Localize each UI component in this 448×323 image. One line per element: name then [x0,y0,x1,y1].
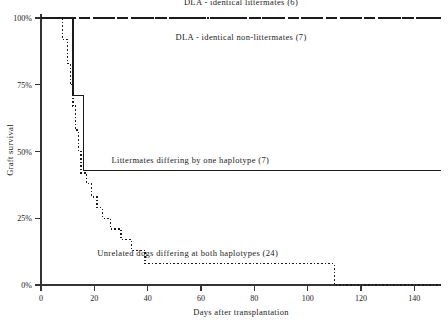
x-axis-label: Days after transplantation [193,307,289,317]
x-tick-label: 140 [408,294,420,303]
x-tick-label: 100 [302,294,314,303]
y-tick-label: 0% [21,281,32,290]
x-tick-label: 80 [250,294,258,303]
y-tick-label: 100% [13,14,32,23]
series-label-0: DLA - identical littermates (6) [184,0,298,7]
x-tick-label: 60 [197,294,205,303]
y-tick-label: 50% [17,148,32,157]
survival-chart-svg: 0%25%50%75%100% 020406080100120140 Graft… [0,0,448,323]
x-tick-label: 120 [355,294,367,303]
y-tick-label: 75% [17,81,32,90]
y-axis-label: Graft survival [5,124,15,176]
series-label-3: Unrelated dogs differing at both haploty… [97,248,278,258]
x-tick-label: 40 [144,294,152,303]
x-tick-label: 0 [39,294,43,303]
figure-survival-curve: 0%25%50%75%100% 020406080100120140 Graft… [0,0,448,323]
y-tick-label: 25% [17,214,32,223]
series-label-1: DLA - identical non-littermates (7) [175,32,306,42]
series-label-2: Littermates differing by one haplotype (… [111,155,269,165]
x-tick-label: 20 [90,294,98,303]
